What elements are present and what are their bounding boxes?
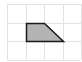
grid-diagram <box>0 0 82 62</box>
trapezoid-shape <box>27 24 64 42</box>
